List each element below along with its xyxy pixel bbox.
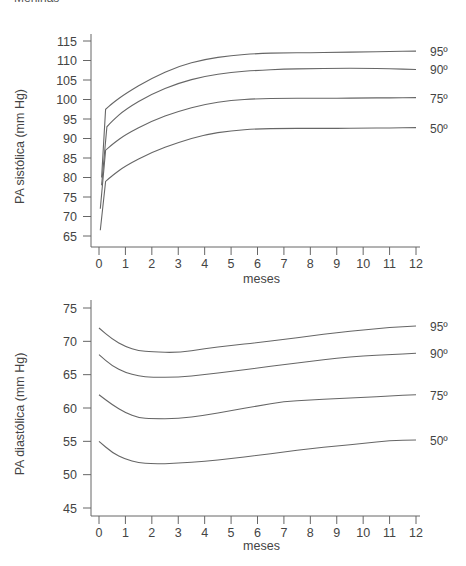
- y-tick-label: 105: [56, 74, 77, 88]
- series-label: 75º: [430, 92, 448, 106]
- x-tick-label: 3: [175, 257, 182, 271]
- y-tick-label: 75: [63, 191, 77, 205]
- series-label: 75º: [430, 389, 448, 403]
- x-tick-label: 8: [307, 526, 314, 540]
- y-tick-label: 60: [63, 402, 77, 416]
- y-tick-label: 115: [57, 35, 77, 49]
- y-tick-label: 45: [63, 502, 77, 516]
- series-label: 90º: [430, 63, 448, 77]
- series-line-50th: [100, 128, 416, 231]
- series-line-75th: [100, 98, 416, 209]
- series-label: 90º: [430, 347, 448, 361]
- x-tick-label: 9: [333, 257, 340, 271]
- series-label: 95º: [430, 320, 448, 334]
- x-tick-label: 4: [201, 257, 208, 271]
- y-tick-label: 70: [63, 335, 77, 349]
- x-tick-label: 12: [409, 257, 423, 271]
- series-label: 50º: [430, 434, 448, 448]
- y-axis-title: PA sistólica (mm Hg): [13, 89, 27, 204]
- x-tick-label: 11: [383, 257, 396, 271]
- x-tick-label: 6: [254, 526, 261, 540]
- x-tick-label: 8: [307, 257, 314, 271]
- y-tick-label: 55: [63, 435, 77, 449]
- x-tick-label: 0: [96, 526, 103, 540]
- y-tick-label: 90: [63, 132, 77, 146]
- x-axis-title: meses: [243, 272, 280, 286]
- percentile-charts: 6570758085909510010511011501234567891011…: [0, 0, 466, 566]
- x-tick-label: 7: [280, 257, 287, 271]
- y-tick-label: 65: [63, 368, 77, 382]
- series-label: 95º: [430, 45, 448, 59]
- x-tick-label: 1: [122, 257, 129, 271]
- x-tick-label: 10: [356, 257, 370, 271]
- y-tick-label: 95: [63, 113, 77, 127]
- y-tick-label: 50: [63, 468, 77, 482]
- series-line-75th: [99, 395, 416, 419]
- x-tick-label: 12: [409, 526, 423, 540]
- series-line-90th: [99, 353, 416, 377]
- series-label: 50º: [430, 122, 448, 136]
- x-tick-label: 7: [280, 526, 287, 540]
- x-tick-label: 11: [383, 526, 396, 540]
- x-tick-label: 9: [333, 526, 340, 540]
- y-tick-label: 65: [63, 230, 77, 244]
- y-tick-label: 75: [63, 302, 77, 316]
- x-tick-label: 6: [254, 257, 261, 271]
- x-tick-label: 4: [201, 526, 208, 540]
- x-tick-label: 2: [148, 526, 155, 540]
- y-tick-label: 85: [63, 152, 77, 166]
- x-tick-label: 0: [96, 257, 103, 271]
- x-tick-label: 5: [228, 526, 235, 540]
- x-tick-label: 3: [175, 526, 182, 540]
- x-tick-label: 10: [356, 526, 370, 540]
- x-axis-title: meses: [243, 539, 280, 553]
- y-tick-label: 70: [63, 210, 77, 224]
- systolic-chart: 6570758085909510010511011501234567891011…: [13, 34, 448, 286]
- x-tick-label: 2: [148, 257, 155, 271]
- series-line-95th: [99, 326, 416, 352]
- y-axis-title: PA diastólica (mm Hg): [13, 353, 27, 476]
- y-tick-label: 80: [63, 171, 77, 185]
- x-tick-label: 1: [122, 526, 129, 540]
- y-tick-label: 100: [56, 93, 77, 107]
- series-line-50th: [99, 440, 416, 464]
- x-tick-label: 5: [228, 257, 235, 271]
- series-line-90th: [102, 68, 416, 185]
- y-tick-label: 110: [57, 54, 77, 68]
- diastolic-chart: 455055606570750123456789101112mesesPA di…: [13, 300, 448, 553]
